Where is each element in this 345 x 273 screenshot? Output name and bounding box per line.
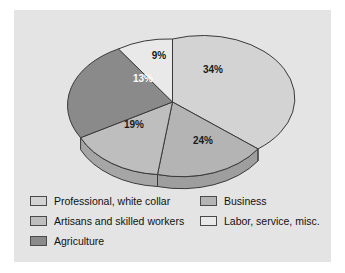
pie-label-labor: 9%: [152, 50, 167, 61]
legend-column-left: Professional, white collar Artisans and …: [30, 192, 198, 252]
legend-label-labor: Labor, service, misc.: [224, 216, 320, 227]
pie-slices: [67, 35, 294, 176]
legend-label-business: Business: [224, 196, 267, 207]
legend-item-professional[interactable]: Professional, white collar: [30, 192, 198, 210]
legend-item-labor[interactable]: Labor, service, misc.: [200, 212, 330, 230]
pie-chart-svg: 34% 24% 19% 13% 9%: [14, 10, 331, 190]
legend-swatch-icon-professional: [30, 196, 47, 206]
legend-swatch-icon-labor: [200, 216, 217, 226]
legend-swatch-icon-artisans: [30, 216, 47, 226]
pie-chart: 34% 24% 19% 13% 9%: [14, 10, 331, 190]
chart-panel: 34% 24% 19% 13% 9% Professional, white c…: [14, 10, 331, 262]
legend-item-artisans[interactable]: Artisans and skilled workers: [30, 212, 198, 230]
legend-label-agriculture: Agriculture: [54, 236, 104, 247]
legend-item-agriculture[interactable]: Agriculture: [30, 232, 198, 250]
legend-label-artisans: Artisans and skilled workers: [54, 216, 184, 227]
legend-swatch-icon-business: [200, 196, 217, 206]
legend-item-business[interactable]: Business: [200, 192, 330, 210]
legend-column-right: Business Labor, service, misc.: [200, 192, 330, 232]
pie-label-business: 24%: [193, 135, 213, 146]
chart-legend: Professional, white collar Artisans and …: [14, 192, 331, 262]
legend-swatch-icon-agriculture: [30, 236, 47, 246]
pie-label-agriculture: 13%: [133, 73, 153, 84]
pie-label-professional: 34%: [203, 64, 223, 75]
legend-label-professional: Professional, white collar: [54, 196, 170, 207]
pie-label-artisans: 19%: [124, 119, 144, 130]
